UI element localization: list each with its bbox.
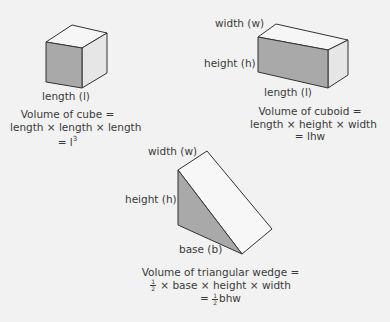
- half-fraction: 12: [212, 293, 218, 306]
- cuboid-shape: [258, 24, 348, 88]
- cuboid-width-label: width (w): [215, 17, 264, 29]
- wedge-width-label: width (w): [148, 145, 197, 157]
- wedge-formula-line2: 12 × base × height × width: [133, 279, 308, 293]
- wedge-shape: [178, 151, 272, 254]
- wedge-base-label: base (b): [179, 243, 222, 255]
- cube-formula: Volume of cube = length × length × lengt…: [10, 108, 125, 148]
- wedge-height-label: height (h): [125, 193, 177, 205]
- cube-length-label: length (l): [42, 90, 90, 102]
- cube-front-face: [46, 42, 82, 88]
- cuboid-formula: Volume of cuboid = length × height × wid…: [250, 105, 370, 143]
- wedge-formula-line3: = 12bhw: [133, 292, 308, 306]
- wedge-formula: Volume of triangular wedge = 12 × base ×…: [133, 266, 308, 306]
- half-fraction: 12: [150, 279, 156, 292]
- cube-shape: [46, 25, 107, 88]
- cuboid-formula-line2: length × height × width: [250, 118, 370, 131]
- cube-formula-line2: length × length × length: [10, 121, 125, 134]
- cuboid-formula-line3: = lhw: [250, 130, 370, 143]
- cuboid-formula-line1: Volume of cuboid =: [250, 105, 370, 118]
- cuboid-length-label: length (l): [264, 86, 312, 98]
- cuboid-height-label: height (h): [204, 57, 256, 69]
- cube-formula-line3: = l3: [10, 133, 125, 148]
- cube-formula-line1: Volume of cube =: [10, 108, 125, 121]
- wedge-formula-line1: Volume of triangular wedge =: [133, 266, 308, 279]
